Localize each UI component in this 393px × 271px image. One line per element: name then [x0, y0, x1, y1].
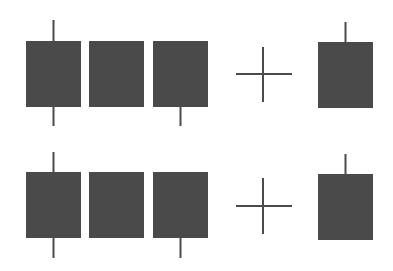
- candle-body: [318, 42, 373, 108]
- candle-2: [89, 172, 144, 238]
- candle-body: [89, 172, 144, 238]
- candle-2: [89, 41, 144, 107]
- candlestick-combination-diagram: [0, 0, 393, 271]
- candle-body: [89, 41, 144, 107]
- candle-body: [153, 41, 208, 107]
- candle-body: [26, 172, 81, 238]
- candle-body: [318, 174, 373, 240]
- candle-body: [153, 172, 208, 238]
- candle-body: [26, 41, 81, 107]
